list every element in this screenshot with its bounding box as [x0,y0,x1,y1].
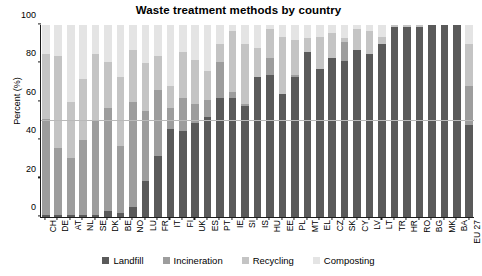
bar-de[interactable] [54,25,62,217]
x-axis-tick: IE [228,220,236,250]
bar-segment-landfill [291,77,299,217]
bar-mk[interactable] [441,25,449,217]
bar-bg[interactable] [428,25,436,217]
bar-segment-recycling [279,37,287,95]
x-axis-tick: ES [203,220,211,250]
bar-segment-recycling [104,62,112,108]
bar-ee[interactable] [279,25,287,217]
bar-lt[interactable] [378,25,386,217]
bar-segment-incineration [179,98,187,131]
bar-segment-composting [216,25,224,44]
x-axis-tick: IT [166,220,174,250]
bar-segment-composting [241,25,249,44]
bar-is[interactable] [254,25,262,217]
x-axis-tick: EU 27 [465,220,473,250]
x-axis-tick-mark [368,217,369,220]
bar-ch[interactable] [42,25,50,217]
bar-segment-composting [54,25,62,56]
bar-dk[interactable] [104,25,112,217]
bar-segment-landfill [204,117,212,217]
bar-segment-recycling [204,71,212,100]
bar-segment-landfill [92,215,100,217]
chart-title: Waste treatment methods by country [0,4,477,16]
legend-label: Landfill [113,255,143,266]
bar-be[interactable] [117,25,125,217]
bar-tr[interactable] [391,25,399,217]
bar-segment-landfill [453,25,461,217]
y-axis-label: Percent (%) [12,46,22,156]
bar-segment-composting [328,25,336,33]
bar-el[interactable] [316,25,324,217]
bar-cy[interactable] [353,25,361,217]
bar-segment-landfill [54,215,62,217]
bar-segment-landfill [266,75,274,217]
legend-label: Recycling [253,255,294,266]
bar-segment-recycling [378,37,386,45]
bar-segment-composting [154,25,162,56]
legend-item-composting[interactable]: Composting [313,255,375,266]
bar-si[interactable] [241,25,249,217]
x-axis-tick-mark [57,217,58,220]
bar-segment-composting [167,25,175,86]
bar-hr[interactable] [403,25,411,217]
bar-fr[interactable] [154,25,162,217]
y-axis-tick-mark [38,62,41,63]
x-axis-tick-mark [344,217,345,220]
bar-segment-composting [67,25,75,102]
bar-segment-landfill [403,27,411,217]
bar-segment-landfill [216,98,224,217]
legend-item-landfill[interactable]: Landfill [102,255,143,266]
legend-item-recycling[interactable]: Recycling [242,255,294,266]
x-axis-tick: TR [390,220,398,250]
bar-hu[interactable] [266,25,274,217]
bar-segment-recycling [42,54,50,119]
bar-lv[interactable] [366,25,374,217]
bar-nl[interactable] [79,25,87,217]
x-axis-tick-mark [294,217,295,220]
bar-segment-recycling [129,50,137,102]
x-axis-tick: IS [253,220,261,250]
bar-segment-recycling [266,29,274,58]
x-axis-tick: UK [191,220,199,250]
bar-segment-composting [316,25,324,37]
bar-segment-landfill [117,213,125,217]
bar-cz[interactable] [328,25,336,217]
bar-ie[interactable] [229,25,237,217]
x-axis-tick-mark [443,217,444,220]
bar-eu27[interactable] [465,25,473,217]
bar-segment-landfill [254,77,262,217]
bar-segment-composting [42,25,50,54]
bar-segment-recycling [54,56,62,148]
bar-segment-landfill [79,215,87,217]
bar-ba[interactable] [453,25,461,217]
bar-lu[interactable] [142,25,150,217]
bar-it[interactable] [167,25,175,217]
bar-se[interactable] [92,25,100,217]
legend-swatch-recycling-icon [242,257,249,264]
bar-es[interactable] [204,25,212,217]
bar-pt[interactable] [216,25,224,217]
x-axis-tick-mark [194,217,195,220]
y-axis-tick-mark [38,215,41,216]
bar-no[interactable] [129,25,137,217]
y-axis-tick-label: 60 [26,87,41,97]
x-axis-tick: HR [403,220,411,250]
x-axis-tick-mark [119,217,120,220]
y-axis-tick-mark [38,138,41,139]
bar-sk[interactable] [341,25,349,217]
x-axis-tick-mark [156,217,157,220]
x-axis-tick: FI [178,220,186,250]
legend-item-incineration[interactable]: Incineration [163,255,223,266]
bar-pl[interactable] [291,25,299,217]
bar-uk[interactable] [191,25,199,217]
x-axis-tick: DK [103,220,111,250]
bar-fi[interactable] [179,25,187,217]
x-axis-tick: MK [440,220,448,250]
bar-ro[interactable] [416,25,424,217]
bar-segment-recycling [154,56,162,91]
bar-at[interactable] [67,25,75,217]
y-axis-tick-mark [38,100,41,101]
bar-mt[interactable] [304,25,312,217]
bar-segment-landfill [229,98,237,217]
bar-segment-composting [204,25,212,71]
